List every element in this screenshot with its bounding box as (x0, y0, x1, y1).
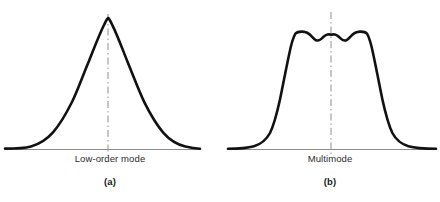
panel-low-order-mode: Low-order mode (a) (0, 0, 220, 202)
figure-root: Low-order mode (a) Multimode (b) (0, 0, 440, 202)
low-order-mode-curve (5, 18, 200, 149)
low-order-mode-plot (0, 0, 220, 202)
multimode-curve (228, 32, 436, 149)
panel-multimode: Multimode (b) (220, 0, 440, 202)
multimode-plot (220, 0, 440, 202)
